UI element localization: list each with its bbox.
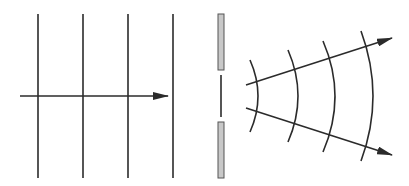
slit-barrier xyxy=(218,14,224,178)
single-slit-diffraction-diagram xyxy=(0,0,409,186)
incident-plane-waves xyxy=(20,14,173,178)
circular-wavefront-arc xyxy=(361,31,373,161)
barrier-top-slab xyxy=(218,14,224,70)
circular-wavefront-arc xyxy=(288,50,298,142)
circular-wavefront-arc xyxy=(250,60,258,132)
diffracted-circular-waves xyxy=(246,31,392,161)
barrier-bottom-slab xyxy=(218,122,224,178)
